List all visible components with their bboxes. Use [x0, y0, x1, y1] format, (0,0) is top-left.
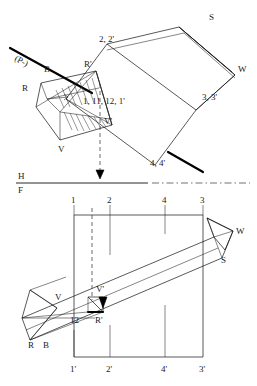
label-r-prime-front: R'	[95, 315, 103, 325]
hatched-prism-edge-d	[41, 83, 60, 112]
prism-band-crease-2	[184, 33, 235, 78]
top-view-group: (P-) B R R' V V' 2, 2' 3, 3' 4, 4' 1, 11…	[10, 12, 247, 179]
label-r-prime-top: R'	[84, 59, 92, 69]
front-view-group: 1 2 4 3 1' 2' 4' 3' R B V V' 12 R' W S	[22, 195, 245, 374]
label-b-top: B	[44, 64, 50, 74]
drawing-sheet: (P-) B R R' V V' 2, 2' 3, 3' 4, 4' 1, 11…	[0, 0, 257, 386]
station-label-4-bottom: 4'	[161, 364, 168, 374]
label-w-front: W	[236, 226, 245, 236]
label-v-prime-front: V'	[96, 284, 104, 294]
label-s-front: S	[221, 255, 226, 265]
label-r-top: R	[22, 83, 28, 93]
label-v-front: V	[55, 292, 62, 302]
label-v-prime-top: V'	[104, 116, 112, 126]
station-label-3-bottom: 3'	[199, 364, 206, 374]
station-label-2-bottom: 2'	[106, 364, 113, 374]
label-edge-group: 1, 11, 12, 1'	[83, 96, 125, 106]
label-point-12: 12	[70, 315, 79, 325]
station-label-4-top: 4	[162, 195, 167, 205]
label-s-top: S	[209, 12, 214, 22]
projector-arrowhead-icon	[96, 170, 104, 179]
label-w-top: W	[238, 64, 247, 74]
cutting-plane-trace-right	[168, 152, 203, 172]
front-view-rectangle	[74, 215, 203, 357]
left-cap-edge-a	[30, 290, 57, 308]
apex-edge-sw-2	[179, 27, 232, 72]
label-r-front: R	[28, 340, 34, 350]
label-plane-trace: (P-)	[13, 53, 30, 69]
label-f: F	[18, 185, 23, 195]
label-v-top: V	[58, 144, 65, 154]
left-cap-edge-c	[30, 277, 66, 290]
label-b-front: B	[43, 340, 49, 350]
right-end-cap	[207, 218, 233, 250]
label-point-3: 3, 3'	[202, 92, 218, 102]
station-label-1-top: 1	[71, 195, 76, 205]
right-cap-edge-c	[214, 231, 233, 237]
station-label-3-top: 3	[200, 195, 205, 205]
reference-line-group: H F	[16, 171, 250, 195]
technical-drawing-canvas: (P-) B R R' V V' 2, 2' 3, 3' 4, 4' 1, 11…	[0, 0, 257, 386]
label-h: H	[18, 171, 25, 181]
station-label-2-top: 2	[107, 195, 112, 205]
auxiliary-arrowhead-icon	[99, 297, 107, 308]
prism-band-crease-front	[26, 248, 218, 330]
left-end-cap	[22, 290, 57, 340]
prism-band-edge-top	[22, 237, 214, 318]
label-point-2: 2, 2'	[99, 34, 115, 44]
station-label-1-bottom: 1'	[70, 364, 77, 374]
right-cap-edge-b	[222, 231, 233, 258]
label-point-4: 4, 4'	[150, 158, 166, 168]
